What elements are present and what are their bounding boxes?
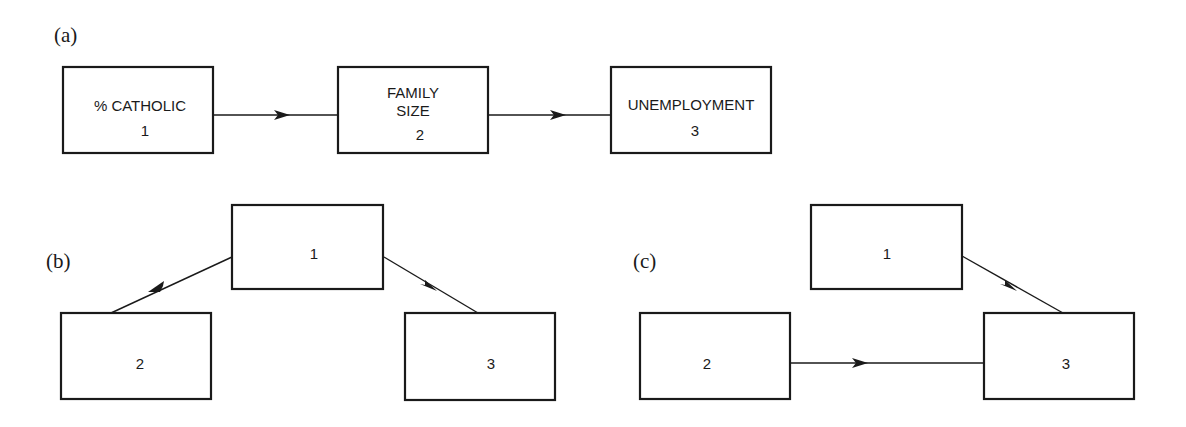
panel-a-node-3: UNEMPLOYMENT 3 [611,67,771,153]
node-number: 3 [487,355,495,372]
panel-a-node-2: FAMILY SIZE 2 [338,67,488,153]
node-label-line-1: FAMILY [387,84,439,101]
panel-c-node-2: 2 [640,313,790,399]
panel-b-edge-1-to-3 [384,257,478,313]
panel-a-node-1: % CATHOLIC 1 [63,67,213,153]
causal-diagram: (a) % CATHOLIC 1 FAMILY SIZE 2 UNEMPLOYM… [0,0,1186,427]
node-box [984,313,1134,399]
node-label-line-2: SIZE [396,102,429,119]
panel-b-edge-1-to-2 [111,257,232,313]
panel-c: (c) 1 2 3 [633,205,1134,399]
panel-a-edge-1-to-2 [213,110,338,120]
panel-a: (a) % CATHOLIC 1 FAMILY SIZE 2 UNEMPLOYM… [54,23,771,153]
edge-line [384,257,478,313]
node-box [640,313,790,399]
node-box [232,205,383,289]
arrowhead-icon [420,280,437,291]
node-label: % CATHOLIC [94,97,186,114]
node-number: 1 [310,245,318,262]
panel-b-node-1: 1 [232,205,383,289]
node-label: UNEMPLOYMENT [628,96,755,113]
node-number: 1 [141,122,149,139]
panel-c-edge-2-to-3 [790,358,984,368]
node-number: 2 [703,355,711,372]
panel-b: (b) 1 2 3 [46,205,555,400]
panel-a-label: (a) [54,23,77,47]
node-number: 3 [1062,355,1070,372]
edge-line [111,257,232,313]
node-number: 2 [416,126,424,143]
node-number: 2 [136,355,144,372]
panel-c-edge-1-to-3 [962,256,1063,313]
panel-c-node-1: 1 [811,205,962,289]
node-box [405,313,555,400]
panel-c-node-3: 3 [984,313,1134,399]
node-number: 3 [691,122,699,139]
edge-line [962,256,1063,313]
panel-b-label: (b) [46,249,71,273]
panel-b-node-2: 2 [61,313,211,399]
panel-c-label: (c) [633,249,656,273]
node-number: 1 [883,245,891,262]
panel-a-edge-2-to-3 [488,110,611,120]
panel-b-node-3: 3 [405,313,555,400]
